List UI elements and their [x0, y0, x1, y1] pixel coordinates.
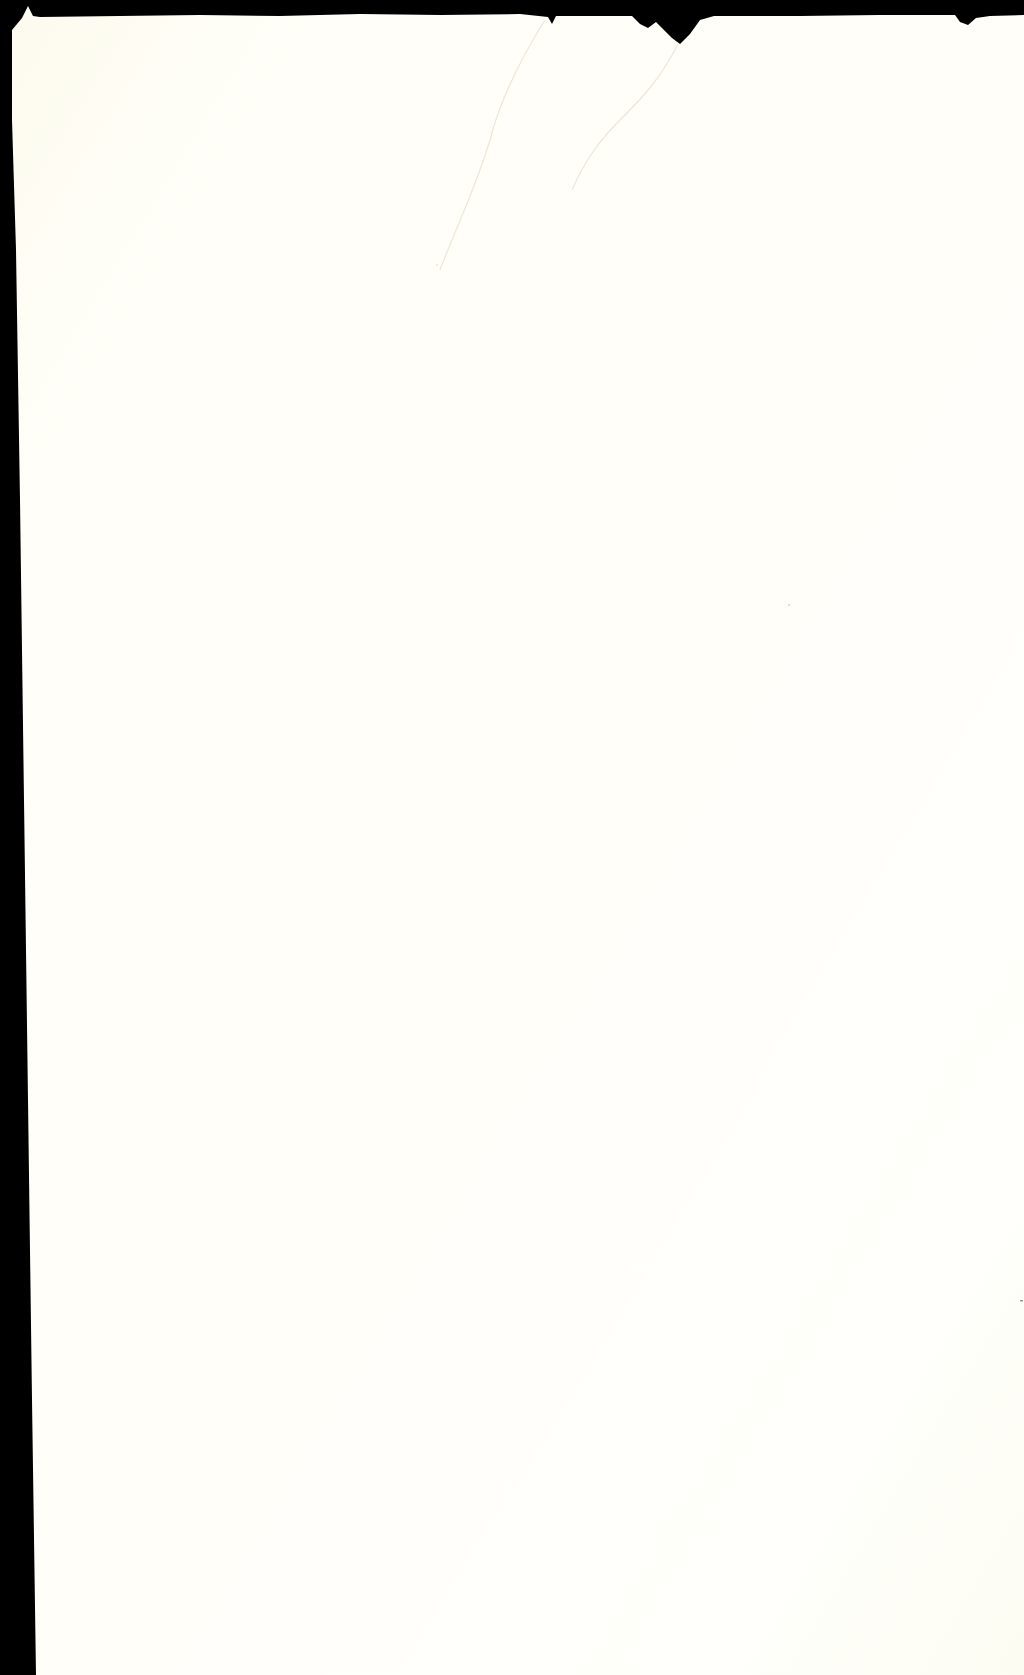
paper-shape: [0, 0, 1024, 1675]
paper-sheet: [0, 0, 1024, 1675]
scanned-page: [0, 0, 1024, 1675]
paper-body: [12, 6, 1024, 1675]
speck-mark: [1020, 1300, 1023, 1302]
speck-mark: [436, 264, 438, 266]
speck-mark: [788, 604, 790, 606]
